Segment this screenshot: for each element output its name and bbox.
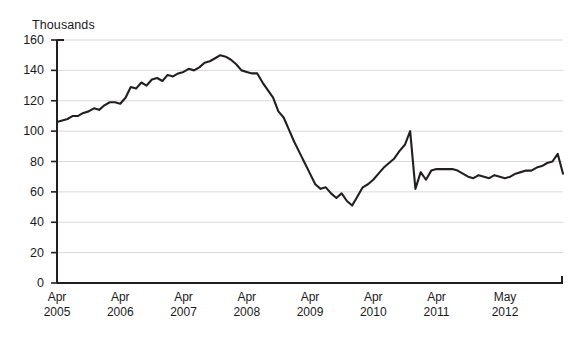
- x-tick-year: 2007: [149, 305, 219, 320]
- x-tick-label: Apr2009: [275, 290, 345, 320]
- x-tick-label: Apr2010: [338, 290, 408, 320]
- chart-figure: Thousands 160140120100806040200 Apr2005A…: [0, 0, 581, 346]
- y-tick-label: 40: [4, 216, 44, 229]
- x-tick-year: 2010: [338, 305, 408, 320]
- y-tick-label: 60: [4, 186, 44, 199]
- data-series-line: [57, 55, 563, 205]
- x-tick-year: 2009: [275, 305, 345, 320]
- x-tick-month: Apr: [149, 290, 219, 305]
- x-tick-year: 2008: [212, 305, 282, 320]
- x-tick-year: 2005: [22, 305, 92, 320]
- x-tick-year: 2011: [402, 305, 472, 320]
- x-tick-month: Apr: [212, 290, 282, 305]
- x-tick-month: Apr: [275, 290, 345, 305]
- y-tick-label: 140: [4, 64, 44, 77]
- x-tick-month: May: [470, 290, 540, 305]
- x-tick-label: Apr2007: [149, 290, 219, 320]
- x-tick-month: Apr: [85, 290, 155, 305]
- y-tick-label: 80: [4, 156, 44, 169]
- x-tick-label: May2012: [470, 290, 540, 320]
- x-tick-label: Apr2008: [212, 290, 282, 320]
- x-tick-label: Apr2011: [402, 290, 472, 320]
- y-tick-label: 120: [4, 95, 44, 108]
- x-tick-label: Apr2005: [22, 290, 92, 320]
- y-tick-label: 20: [4, 247, 44, 260]
- y-tick-label: 100: [4, 125, 44, 138]
- x-tick-month: Apr: [22, 290, 92, 305]
- x-tick-year: 2006: [85, 305, 155, 320]
- x-tick-month: Apr: [402, 290, 472, 305]
- x-tick-month: Apr: [338, 290, 408, 305]
- x-tick-label: Apr2006: [85, 290, 155, 320]
- y-tick-label: 160: [4, 34, 44, 47]
- gridlines-group: [57, 40, 563, 283]
- x-tick-year: 2012: [470, 305, 540, 320]
- y-tick-label: 0: [4, 277, 44, 290]
